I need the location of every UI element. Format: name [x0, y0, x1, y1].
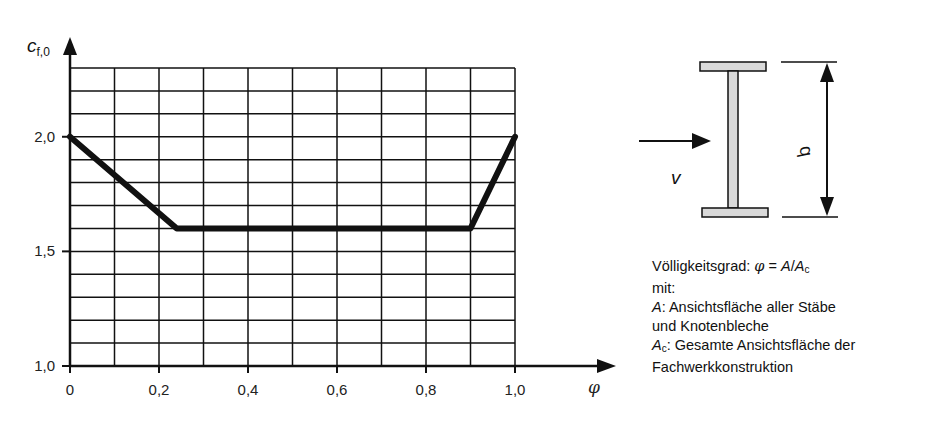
desc-line-6: Fachwerkkonstruktion [652, 358, 855, 377]
top-flange [700, 62, 766, 71]
x-tick-label: 0,8 [416, 381, 437, 398]
dimension-arrow-down-icon [820, 197, 834, 216]
dimension-arrow-up-icon [820, 63, 834, 82]
symbol-A: A [652, 299, 662, 315]
desc-A-text: : Ansichtsfläche aller Stäbe [662, 299, 836, 315]
desc-line-4: und Knotenbleche [652, 317, 855, 336]
x-axis-arrow-icon [597, 359, 616, 373]
desc-line-3: A: Ansichtsfläche aller Stäbe [652, 298, 855, 317]
symbol-Ac: A [795, 258, 805, 274]
y-tick-label: 2,0 [34, 128, 55, 145]
bottom-flange [702, 208, 768, 217]
x-tick-label: 0,6 [327, 381, 348, 398]
symbol-A: A [781, 258, 791, 274]
desc-prefix: Völligkeitsgrad: [652, 258, 754, 274]
desc-line-1: Völligkeitsgrad: φ = A/Ac [652, 257, 855, 279]
desc-Ac-text: : Gesamte Ansichtsfläche der [667, 337, 856, 353]
symbol-Ac: A [652, 337, 662, 353]
web [728, 71, 738, 208]
y-axis-label-sub: f,0 [37, 45, 51, 59]
grid [70, 68, 515, 366]
desc-line-2: mit: [652, 279, 855, 298]
equals: = [765, 258, 782, 274]
phi-symbol: φ [754, 258, 764, 274]
x-tick-label: 0 [66, 381, 74, 398]
y-axis-arrow-icon [63, 37, 77, 55]
i-beam-figure: v d [639, 62, 838, 217]
wind-label: v [671, 167, 682, 188]
description-text: Völligkeitsgrad: φ = A/Ac mit: A: Ansich… [652, 257, 855, 377]
symbol-Ac-sub: c [804, 264, 809, 275]
dimension-label: d [793, 146, 814, 158]
x-tick-label: 0,2 [149, 381, 170, 398]
y-tick-label: 1,5 [34, 242, 55, 259]
x-tick-label: 1,0 [505, 381, 526, 398]
y-axis-label: cf,0 [27, 35, 50, 59]
desc-line-5: Ac: Gesamte Ansichtsfläche der [652, 336, 855, 358]
y-tick-label: 1,0 [34, 357, 55, 374]
x-tick-label: 0,4 [238, 381, 259, 398]
x-axis-label: φ [588, 377, 600, 397]
wind-arrow-icon [692, 133, 711, 149]
